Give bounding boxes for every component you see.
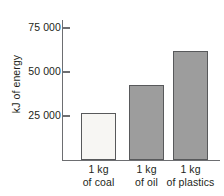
- x-axis-labels: 1 kg of coal 1 kg of oil 1 kg of plastic…: [63, 163, 220, 196]
- y-axis-title: kJ of energy: [10, 29, 22, 139]
- y-tick-label-75000: 75 000: [13, 21, 61, 33]
- y-tick-label-50000: 50 000: [13, 65, 61, 77]
- x-label-plastics-line2: of plastics: [151, 176, 224, 189]
- bar-coal: [81, 113, 116, 160]
- y-tick-25000: 25 000: [8, 109, 61, 121]
- bar-chart: kJ of energy 75 000 50 000 25 000 1 kg o…: [0, 0, 223, 196]
- plot-area: [63, 20, 220, 160]
- x-label-plastics-line1: 1 kg: [180, 163, 200, 175]
- y-tick-75000: 75 000: [8, 21, 61, 33]
- x-label-plastics: 1 kg of plastics: [151, 163, 224, 189]
- y-tick-50000: 50 000: [8, 65, 61, 77]
- y-tick-label-25000: 25 000: [13, 109, 61, 121]
- bar-oil: [129, 85, 164, 160]
- bar-plastics: [173, 51, 208, 160]
